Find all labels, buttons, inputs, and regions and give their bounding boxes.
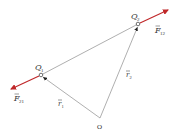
svg-text:12: 12: [160, 31, 166, 36]
svg-text:2: 2: [130, 75, 132, 80]
svg-text:1: 1: [62, 104, 64, 109]
f12-label: F 12: [154, 26, 166, 36]
r2-label: r 2: [126, 71, 132, 80]
origin-label: O: [97, 123, 102, 131]
r1-label: r 1: [58, 100, 64, 109]
svg-text:21: 21: [19, 99, 25, 104]
q1-charge-point: [39, 73, 43, 77]
q1-label: Q 1: [35, 63, 44, 73]
f21-force-arrow: [11, 76, 39, 89]
svg-text:2: 2: [137, 17, 140, 22]
q2-charge-point: [136, 22, 140, 26]
q1-q2-line: [41, 24, 138, 75]
force-diagram: Q 2 Q 1 F 12 F 21 r 1 r 2 O: [0, 0, 181, 134]
f21-label: F 21: [13, 94, 25, 104]
svg-text:1: 1: [41, 68, 44, 73]
f12-force-arrow: [140, 10, 168, 23]
q2-label: Q 2: [131, 12, 140, 22]
r1-vector: [43, 77, 100, 118]
